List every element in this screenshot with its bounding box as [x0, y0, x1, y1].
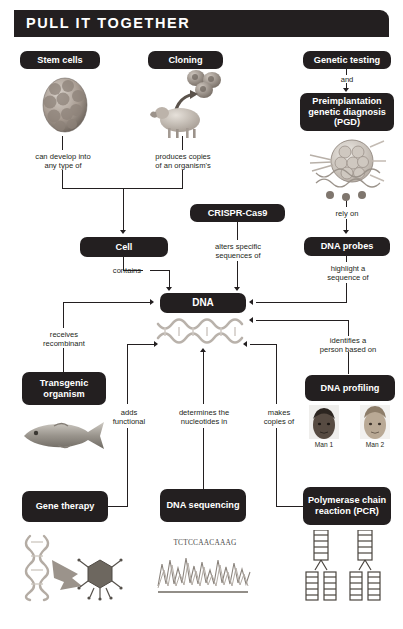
node-stem-cells[interactable]: Stem cells — [20, 51, 100, 69]
man2-portrait — [360, 405, 390, 439]
connector-label-makes-copies: makes copies of — [254, 408, 304, 427]
arrow-alters-to-dna — [234, 287, 240, 291]
page-title: PULL IT TOGETHER — [26, 15, 190, 31]
node-cloning[interactable]: Cloning — [148, 51, 223, 69]
line-identifies-to-helix — [256, 320, 349, 321]
line-adds-to-helix — [127, 344, 155, 345]
node-dna-profiling[interactable]: DNA profiling — [305, 375, 395, 401]
node-crispr-cas9[interactable]: CRISPR-Cas9 — [190, 204, 285, 222]
line-dna-sequencing-up — [203, 428, 204, 489]
line-gene-therapy-h — [108, 506, 128, 507]
node-dna-probes[interactable]: DNA probes — [304, 237, 390, 256]
connector-label-can-develop-into: can develop into any type of — [24, 152, 102, 171]
connector-label-receives-recombinant: receives recombinant — [26, 330, 102, 349]
connector-label-alters-specific: alters specific sequences of — [200, 242, 276, 261]
gene-therapy-illustration — [20, 534, 130, 602]
line-alters-to-dna — [237, 261, 238, 288]
connector-label-determines-nucleotides: determines the nucleotides in — [164, 408, 244, 427]
line-dna-probes-down — [346, 256, 347, 262]
line-merge-to-cell — [123, 188, 124, 232]
line-receives-up — [63, 302, 64, 328]
caption-man1: Man 1 — [309, 441, 339, 448]
line-cell-contains-h — [123, 270, 143, 271]
line-pcr-up — [276, 428, 277, 507]
concept-map-canvas: PULL IT TOGETHER Stem cells Cloning Gene… — [0, 0, 403, 629]
pcr-illustration — [300, 530, 396, 602]
arrow-determines-to-helix — [200, 348, 206, 352]
arrow-highlight-to-dna — [249, 299, 253, 305]
sequencing-chromatogram — [156, 550, 252, 596]
line-transgenic-up — [63, 348, 64, 372]
line-highlight-to-dna — [256, 302, 346, 303]
node-transgenic-organism[interactable]: Transgenic organism — [22, 372, 106, 405]
line-stem-cells-down — [62, 170, 63, 188]
node-pgd[interactable]: Preimplantation genetic diagnosis (PGD) — [300, 93, 394, 131]
caption-man2: Man 2 — [360, 441, 390, 448]
node-pcr[interactable]: Polymerase chain reaction (PCR) — [303, 487, 391, 525]
node-gene-therapy[interactable]: Gene therapy — [22, 491, 108, 522]
arrow-merge-to-cell — [120, 230, 126, 234]
connector-label-rely-on: rely on — [329, 209, 365, 218]
node-cell[interactable]: Cell — [80, 237, 168, 257]
line-identifies-up — [348, 320, 349, 336]
dna-helix-illustration — [155, 318, 251, 346]
line-cloning-down — [182, 170, 183, 188]
sequencing-readout-text: TCTCCAACAAAG — [160, 538, 250, 547]
line-pcr-h — [276, 506, 304, 507]
line-contains-to-dna-v — [169, 270, 170, 288]
line-makes-copies-up — [276, 344, 277, 404]
line-genetic-testing-to-and — [346, 69, 347, 75]
line-determines-up — [203, 352, 204, 404]
line-receives-to-dna — [63, 302, 151, 303]
line-highlight-down — [346, 283, 347, 303]
line-crispr-down — [237, 222, 238, 240]
line-contains-to-dna-h — [150, 270, 170, 271]
line-adds-functional-up — [127, 344, 128, 404]
line-dna-profiling-up — [348, 352, 349, 374]
node-dna-sequencing[interactable]: DNA sequencing — [160, 489, 246, 522]
transgenic-fish-illustration — [18, 418, 110, 452]
arrow-contains-to-dna — [166, 287, 172, 291]
stem-cell-illustration — [36, 74, 94, 134]
line-stem-cells-to-label — [62, 136, 63, 150]
connector-label-highlight-sequence: highlight a sequence of — [310, 264, 386, 283]
dna-probes-illustration — [312, 165, 388, 205]
node-dna[interactable]: DNA — [160, 293, 246, 313]
connector-label-adds-functional: adds functional — [104, 408, 154, 427]
arrow-receives-to-dna — [150, 299, 154, 305]
arrow-rely-on-to-dna-probes — [343, 230, 349, 234]
man1-portrait — [309, 405, 339, 439]
arrow-and-to-pgd — [343, 88, 349, 92]
line-makes-to-helix — [250, 344, 277, 345]
line-cell-down — [123, 257, 124, 270]
connector-label-produces-copies: produces copies of an organism's — [144, 152, 222, 171]
line-cloning-to-label — [182, 136, 183, 150]
cloning-illustration — [140, 68, 232, 138]
line-gene-therapy-up — [127, 428, 128, 507]
node-genetic-testing[interactable]: Genetic testing — [303, 51, 391, 69]
